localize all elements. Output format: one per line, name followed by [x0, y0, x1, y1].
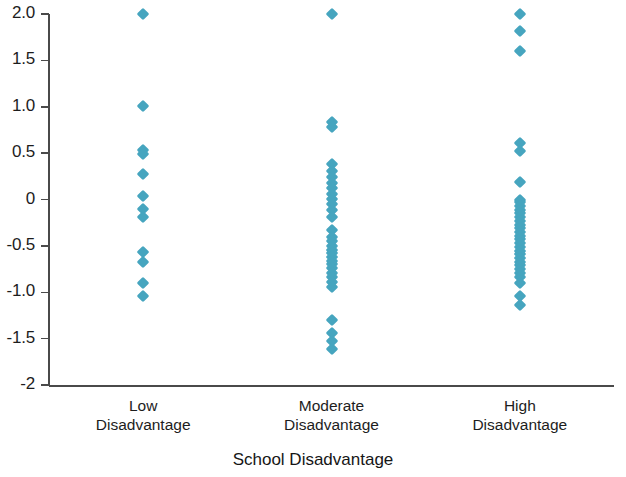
data-point-marker [325, 211, 338, 224]
data-point-marker [137, 255, 150, 268]
y-axis-tick-mark [41, 13, 49, 15]
y-axis-tick-label: -2 [0, 374, 35, 394]
y-axis-tick-mark [41, 245, 49, 247]
x-axis-line [49, 385, 614, 387]
data-point-marker [137, 211, 150, 224]
y-axis-tick-label: 0.5 [0, 142, 35, 162]
y-axis-tick-label: -1.5 [0, 328, 35, 348]
data-point-marker [137, 8, 150, 21]
y-axis-tick-mark [41, 106, 49, 108]
data-point-marker [325, 342, 338, 355]
data-point-marker [325, 8, 338, 21]
x-axis-category-label: Low Disadvantage [43, 396, 243, 434]
data-point-marker [513, 45, 526, 58]
y-axis-tick-mark [41, 199, 49, 201]
y-axis-tick-label: 2.0 [0, 3, 35, 23]
y-axis-tick-mark [41, 384, 49, 386]
x-axis-category-label: Moderate Disadvantage [232, 396, 432, 434]
data-point-marker [137, 290, 150, 303]
data-point-marker [325, 314, 338, 327]
data-point-marker [513, 24, 526, 37]
y-axis-tick-label: -0.5 [0, 235, 35, 255]
data-point-marker [137, 99, 150, 112]
data-point-marker [137, 277, 150, 290]
data-point-marker [513, 299, 526, 312]
data-point-marker [513, 145, 526, 158]
y-axis-tick-label: 1.0 [0, 96, 35, 116]
y-axis-tick-mark [41, 338, 49, 340]
y-axis-tick-mark [41, 152, 49, 154]
y-axis-tick-mark [41, 60, 49, 62]
data-point-marker [137, 168, 150, 181]
data-point-marker [513, 176, 526, 189]
x-axis-title: School Disadvantage [0, 450, 626, 470]
scatter-plot-figure: 2.01.51.00.50-0.5-1.0-1.5-2 Low Disadvan… [0, 0, 626, 477]
data-point-marker [137, 189, 150, 202]
data-point-marker [513, 8, 526, 21]
x-axis-category-label: High Disadvantage [420, 396, 620, 434]
y-axis-tick-mark [41, 292, 49, 294]
y-axis-tick-label: 1.5 [0, 49, 35, 69]
y-axis-tick-label: -1.0 [0, 281, 35, 301]
y-axis-tick-label: 0 [0, 189, 35, 209]
